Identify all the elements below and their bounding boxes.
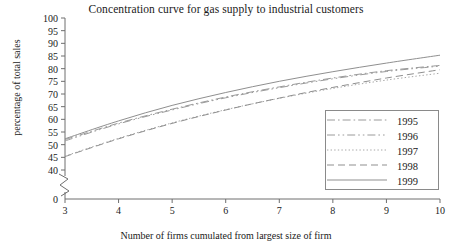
concentration-curve-chart: Concentration curve for gas supply to in…	[0, 0, 452, 244]
legend-line-swatch	[331, 146, 393, 158]
legend-item-1997[interactable]: 1997	[326, 144, 438, 159]
legend-line-swatch	[331, 176, 393, 188]
y-axis-break-icon	[59, 174, 69, 196]
x-axis-label: Number of firms cumulated from largest s…	[0, 230, 452, 241]
legend-line-swatch	[331, 116, 393, 128]
legend-line-swatch	[331, 131, 393, 143]
legend-item-1995[interactable]: 1995	[326, 114, 438, 129]
legend-label: 1996	[397, 131, 418, 142]
legend-item-1998[interactable]: 1998	[326, 159, 438, 174]
chart-legend: 19951996199719981999	[325, 110, 439, 190]
legend-line-swatch	[331, 161, 393, 173]
legend-label: 1999	[397, 176, 418, 187]
legend-item-1999[interactable]: 1999	[326, 174, 438, 189]
legend-label: 1995	[397, 116, 418, 127]
legend-label: 1997	[397, 146, 418, 157]
legend-label: 1998	[397, 161, 418, 172]
legend-item-1996[interactable]: 1996	[326, 129, 438, 144]
